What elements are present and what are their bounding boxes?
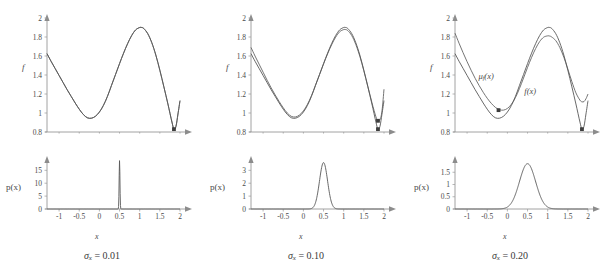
mu-f-curve: [251, 29, 384, 121]
panel-sigma-0-20: 0.811.21.41.61.82μf(x)f(x) f 00.511.5-1-…: [408, 0, 612, 275]
y-axis-arrow: [44, 14, 49, 21]
minimum-marker: [376, 119, 380, 123]
y-tick-label: 1.8: [441, 33, 451, 42]
y-tick-label: 0: [242, 205, 246, 214]
x-tick-label: 0.5: [319, 212, 329, 221]
minimum-marker: [497, 108, 501, 112]
y-tick-label: 2: [446, 14, 450, 23]
x-tick-label: -0.5: [73, 212, 85, 221]
y-tick-label: 1: [242, 192, 246, 201]
y-tick-label: 1.4: [237, 71, 247, 80]
y-axis-arrow: [44, 156, 49, 163]
y-tick-label: 1.8: [33, 33, 43, 42]
f-curve-label: f(x): [524, 86, 536, 96]
y-tick-label: 0.5: [441, 192, 451, 201]
panel-sigma-0-01: 0.811.21.41.61.82 f 051015-1-0.500.511.5…: [0, 0, 204, 275]
f-plot-panel-2: 0.811.21.41.61.82: [204, 4, 408, 149]
minimum-marker: [376, 127, 380, 131]
x-axis-arrow: [389, 129, 396, 135]
f-curve: [251, 27, 384, 129]
caption-sigma-subscript: x: [89, 254, 92, 262]
y-tick-label: 1.2: [237, 90, 247, 99]
y-tick-label: 1.5: [441, 168, 451, 177]
caption-equals: =: [502, 250, 508, 261]
y-tick-label: 2: [242, 179, 246, 188]
x-axis-arrow: [185, 129, 192, 135]
f-plot-panel-3: 0.811.21.41.61.82μf(x)f(x): [408, 4, 612, 149]
f-axis-label: f: [226, 62, 229, 72]
x-tick-label: 2: [586, 212, 590, 221]
mu-f-curve: [47, 27, 180, 129]
x-axis-arrow: [185, 206, 192, 212]
y-tick-label: 1: [242, 109, 246, 118]
y-tick-label: 0: [38, 205, 42, 214]
y-tick-label: 0.8: [237, 128, 247, 137]
caption-value: 0.20: [511, 250, 529, 261]
x-tick-label: 0.5: [523, 212, 533, 221]
y-tick-label: 1: [446, 180, 450, 189]
p-plot-panel-1: 051015-1-0.500.511.52: [0, 152, 204, 222]
y-axis-arrow: [248, 14, 253, 21]
panel-caption-2: σx = 0.10: [204, 250, 408, 262]
y-tick-label: 1: [38, 109, 42, 118]
figure-container: 0.811.21.41.61.82 f 051015-1-0.500.511.5…: [0, 0, 612, 275]
y-tick-label: 2: [38, 14, 42, 23]
minimum-marker: [580, 127, 584, 131]
y-axis-arrow: [248, 156, 253, 163]
x-tick-label: -1: [56, 212, 62, 221]
p-plot-panel-2: 0123-1-0.500.511.52: [204, 152, 408, 222]
f-curve: [47, 27, 180, 129]
x-axis-arrow: [593, 129, 600, 135]
probability-density-curve: [251, 163, 384, 209]
x-tick-label: 0: [302, 212, 306, 221]
y-tick-label: 1.6: [237, 52, 247, 61]
y-tick-label: 0.8: [441, 128, 451, 137]
f-axis-label: f: [22, 62, 25, 72]
x-tick-label: 2: [382, 212, 386, 221]
x-axis-label: x: [299, 232, 303, 241]
y-tick-label: 1.6: [33, 52, 43, 61]
p-axis-label: p(x): [414, 182, 429, 192]
caption-equals: =: [298, 250, 304, 261]
p-axis-label: p(x): [210, 182, 225, 192]
caption-value: 0.01: [103, 250, 121, 261]
p-axis-label: p(x): [6, 182, 21, 192]
x-tick-label: 2: [178, 212, 182, 221]
x-tick-label: 1: [546, 212, 550, 221]
panel-caption-3: σx = 0.20: [408, 250, 612, 262]
y-axis-arrow: [452, 156, 457, 163]
f-plot-svg-1: 0.811.21.41.61.82: [0, 4, 204, 149]
x-tick-label: 1.5: [563, 212, 573, 221]
y-tick-label: 0: [446, 205, 450, 214]
probability-density-curve: [455, 164, 588, 209]
x-tick-label: 1: [138, 212, 142, 221]
y-tick-label: 15: [35, 166, 43, 175]
x-tick-label: -1: [464, 212, 470, 221]
f-plot-panel-1: 0.811.21.41.61.82: [0, 4, 204, 149]
x-tick-label: 0: [506, 212, 510, 221]
x-tick-label: -1: [260, 212, 266, 221]
x-tick-label: 0.5: [115, 212, 125, 221]
x-axis-arrow: [593, 206, 600, 212]
p-plot-panel-3: 00.511.5-1-0.500.511.52: [408, 152, 612, 222]
probability-density-curve: [47, 161, 180, 209]
y-tick-label: 1: [446, 109, 450, 118]
p-plot-svg-3: 00.511.5-1-0.500.511.52: [408, 152, 612, 222]
y-tick-label: 1.4: [33, 71, 43, 80]
x-axis-label: x: [503, 232, 507, 241]
x-tick-label: -0.5: [277, 212, 289, 221]
caption-sigma-subscript: x: [497, 254, 500, 262]
caption-sigma-subscript: x: [293, 254, 296, 262]
mu-f-curve-label: μf(x): [477, 71, 494, 82]
f-plot-svg-3: 0.811.21.41.61.82μf(x)f(x): [408, 4, 612, 149]
minimum-marker: [172, 127, 176, 131]
y-tick-label: 5: [38, 192, 42, 201]
x-axis-arrow: [389, 206, 396, 212]
y-tick-label: 3: [242, 166, 246, 175]
x-tick-label: 0: [98, 212, 102, 221]
x-tick-label: -0.5: [481, 212, 493, 221]
f-plot-svg-2: 0.811.21.41.61.82: [204, 4, 408, 149]
panel-sigma-0-10: 0.811.21.41.61.82 f 0123-1-0.500.511.52 …: [204, 0, 408, 275]
f-axis-label: f: [430, 62, 433, 72]
panel-caption-1: σx = 0.01: [0, 250, 204, 262]
